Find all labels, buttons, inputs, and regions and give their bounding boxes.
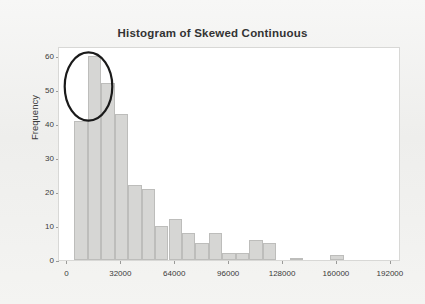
x-tick-mark <box>228 261 229 264</box>
x-tick-label: 96000 <box>200 269 256 278</box>
chart-title: Histogram of Skewed Continuous <box>0 27 425 39</box>
x-tick-mark <box>336 261 337 264</box>
plot-area <box>58 47 400 261</box>
x-tick-mark <box>120 261 121 264</box>
y-tick-label: 20 <box>32 188 54 197</box>
x-tick-label: 128000 <box>254 269 310 278</box>
histogram-bar <box>155 226 168 260</box>
histogram-bar <box>209 233 222 260</box>
histogram-bar <box>330 255 343 260</box>
histogram-figure: Histogram of Skewed Continuous 010203040… <box>0 0 425 304</box>
x-tick-mark <box>174 261 175 264</box>
histogram-bar <box>222 253 235 260</box>
x-tick-mark <box>282 261 283 264</box>
histogram-bar <box>142 189 155 260</box>
x-tick-label: 64000 <box>146 269 202 278</box>
x-tick-label: 160000 <box>308 269 364 278</box>
y-tick-label: 0 <box>32 256 54 265</box>
histogram-bar <box>169 219 182 260</box>
histogram-bar <box>88 56 101 260</box>
histogram-bars <box>59 48 399 260</box>
x-tick-label: 0 <box>38 269 94 278</box>
histogram-bar <box>115 114 128 260</box>
y-tick-label: 60 <box>32 52 54 61</box>
histogram-bar <box>195 243 208 260</box>
x-axis-tick-group: 0320006400096000128000160000192000 <box>58 261 400 285</box>
histogram-bar <box>182 233 195 260</box>
y-tick-label: 10 <box>32 222 54 231</box>
y-axis-label: Frequency <box>29 78 40 158</box>
x-tick-label: 192000 <box>362 269 418 278</box>
x-tick-mark <box>390 261 391 264</box>
histogram-bar <box>74 121 87 260</box>
histogram-bar <box>128 185 141 260</box>
histogram-bar <box>236 253 249 260</box>
x-tick-label: 32000 <box>92 269 148 278</box>
histogram-bar <box>263 243 276 260</box>
histogram-bar <box>249 240 262 260</box>
histogram-bar <box>101 83 114 260</box>
histogram-bar <box>290 258 303 260</box>
x-tick-mark <box>66 261 67 264</box>
